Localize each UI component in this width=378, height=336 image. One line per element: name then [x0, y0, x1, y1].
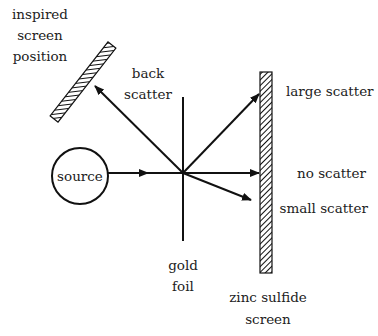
label-zinc-sulfide: zinc sulfide	[229, 289, 307, 305]
label-inspired-1: inspired	[12, 6, 68, 22]
label-back-1: back	[132, 65, 165, 81]
label-inspired-2: screen	[17, 27, 63, 43]
label-gold: gold	[168, 257, 198, 273]
label-no-scatter: no scatter	[297, 165, 366, 181]
label-back-2: scatter	[124, 86, 172, 102]
label-inspired-3: position	[13, 48, 68, 64]
label-large-scatter: large scatter	[286, 83, 374, 99]
small-scatter-arrow	[183, 173, 251, 200]
zinc-sulfide-screen	[260, 72, 272, 273]
label-foil: foil	[172, 278, 194, 294]
diagram-canvas: inspired screen position back scatter la…	[0, 0, 378, 336]
label-source: source	[57, 168, 103, 184]
label-screen: screen	[245, 311, 291, 327]
label-small-scatter: small scatter	[279, 200, 368, 216]
large-scatter-arrow	[183, 94, 259, 173]
